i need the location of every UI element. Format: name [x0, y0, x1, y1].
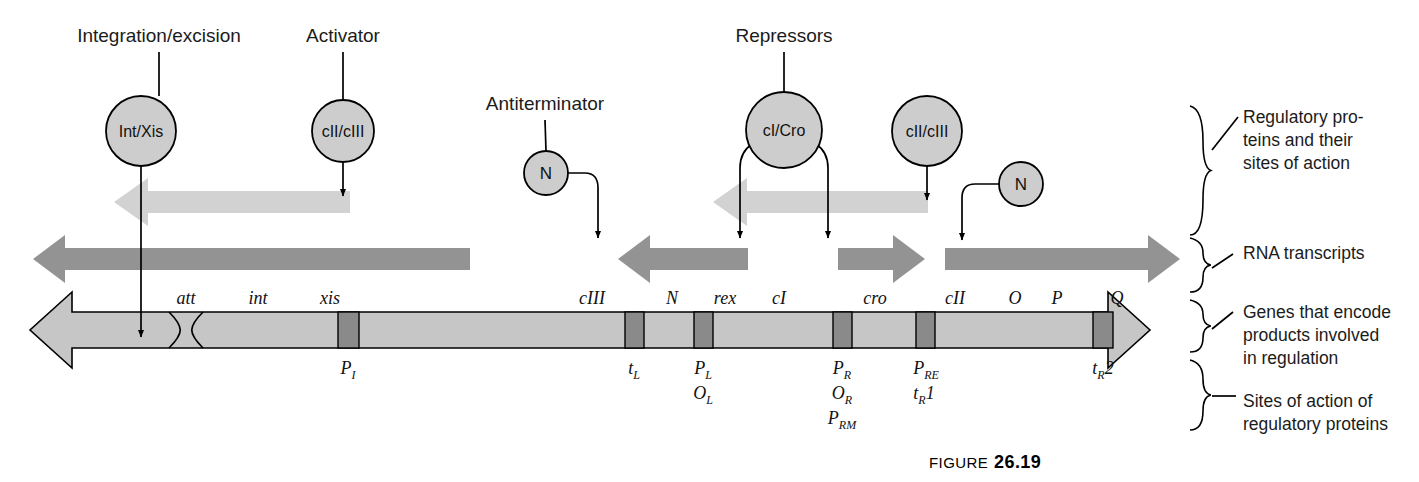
protein-label: N [1015, 175, 1027, 194]
bracket-sites-of-action [1190, 360, 1211, 430]
rna-transcripts-group [33, 235, 1180, 283]
bracket-rna-transcripts [1190, 238, 1211, 292]
heading-integration-excision: Integration/excision [77, 25, 241, 46]
site-label-PRE: PRE [912, 358, 939, 382]
heading-antiterminator: Antiterminator [486, 93, 605, 114]
bracket-regulatory-proteins [1190, 106, 1211, 235]
heading-activator: Activator [306, 25, 381, 46]
site-label-PR: PR [832, 358, 852, 382]
site-labels-group: PItLPLOLPRORPRMPREtR1tR2 [340, 358, 1114, 432]
n-right-elbow [962, 184, 999, 240]
lambda-phage-regulation-diagram: Int/XiscII/cIIINcI/CrocII/cIIIN Integrat… [0, 0, 1419, 482]
regulatory-proteins-label: Regulatory pro-teins and theirsites of a… [1243, 107, 1364, 173]
gene-label-rex: rex [714, 288, 736, 308]
diagram-canvas: Int/XiscII/cIIINcI/CrocII/cIIIN Integrat… [0, 0, 1419, 482]
ci-cro-action-arrow [713, 178, 928, 226]
bracket-genes-encode [1190, 300, 1211, 352]
site-box-P-R [833, 312, 852, 348]
leftward-long-transcript [33, 235, 470, 283]
gene-label-ciii: cIII [579, 288, 606, 308]
figure-caption: FIGURE26.19 [929, 452, 1041, 472]
protein-label: cII/cIII [906, 123, 949, 140]
genes-encode-label: Genes that encodeproducts involvedin reg… [1243, 302, 1391, 368]
gene-label-att: att [176, 288, 196, 308]
gene-label-cro: cro [863, 288, 886, 308]
n-left-elbow [568, 173, 598, 238]
rightward-long-transcript [945, 235, 1180, 283]
protein-circle-cii-ciii: cII/cIII [312, 100, 374, 162]
site-box-t-L [625, 312, 644, 348]
gene-label-xis: xis [319, 288, 340, 308]
rightward-short-transcript [838, 235, 925, 283]
protein-circle-cii-ciii: cII/cIII [892, 96, 962, 166]
gene-label-ci: cI [772, 288, 787, 308]
site-label-PI: PI [340, 358, 357, 382]
gene-label-q: Q [1111, 288, 1124, 308]
heading-repressors: Repressors [735, 25, 832, 46]
leader-rna-transcripts [1212, 254, 1233, 268]
site-label-PRM: PRM [827, 408, 857, 432]
site-box-P-L [694, 312, 713, 348]
gene-labels-group: attintxiscIIINrexcIcrocIIOPQ [176, 288, 1123, 308]
rna-transcripts-label: RNA transcripts [1243, 243, 1365, 263]
site-box-P-I [338, 312, 359, 348]
site-box-P-RE [916, 312, 935, 348]
gene-label-int: int [248, 288, 268, 308]
site-label-tL: tL [628, 358, 640, 382]
sites-of-action-label: Sites of action ofregulatory proteins [1243, 391, 1388, 434]
protein-action-arrows-group [114, 178, 928, 226]
site-label-OR: OR [832, 383, 853, 407]
protein-circle-n: N [524, 151, 568, 195]
leader-genes-encode [1212, 312, 1233, 329]
site-label-PL: PL [693, 358, 712, 382]
gene-label-n: N [665, 288, 679, 308]
site-label-tR1: tR1 [913, 383, 934, 407]
protein-circle-n: N [999, 162, 1043, 206]
leader-regulatory-proteins [1212, 117, 1238, 150]
int-xis-action-arrow [114, 178, 350, 226]
site-label-tR2: tR2 [1092, 358, 1113, 382]
protein-label: cI/Cro [763, 122, 806, 139]
protein-label: N [540, 164, 552, 183]
protein-label: cII/cIII [322, 123, 365, 140]
gene-label-p: P [1051, 288, 1063, 308]
protein-circle-ci-cro: cI/Cro [746, 92, 822, 168]
site-label-OL: OL [693, 383, 713, 407]
gene-label-cii: cII [945, 288, 966, 308]
gene-label-o: O [1009, 288, 1022, 308]
protein-circle-int-xis: Int/Xis [106, 96, 176, 166]
right-brackets-group: Regulatory pro-teins and theirsites of a… [1190, 106, 1391, 434]
leftward-short-transcript [618, 235, 748, 283]
protein-label: Int/Xis [119, 123, 163, 140]
site-box-t-R2 [1093, 312, 1113, 348]
protein-headings-group: Integration/excisionActivatorAntitermina… [77, 25, 832, 114]
antiterminator-stem [545, 120, 546, 151]
